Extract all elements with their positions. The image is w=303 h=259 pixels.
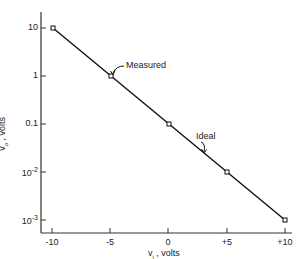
x-tick-label: -5 xyxy=(106,237,114,247)
x-ticks xyxy=(52,228,285,233)
x-tick-label: +5 xyxy=(222,237,232,247)
x-tick-label: -10 xyxy=(45,237,58,247)
y-tick-label: 10-3 xyxy=(22,214,38,226)
ideal-annotation: Ideal xyxy=(196,131,216,141)
y-tick-label: 1 xyxy=(33,70,38,80)
y-ticks xyxy=(41,28,46,220)
y-tick-label: 10-2 xyxy=(22,166,38,178)
y-tick-label: 0.1 xyxy=(25,118,38,128)
measured-annotation: Measured xyxy=(126,60,166,70)
x-tick-label: 0 xyxy=(165,237,170,247)
y-axis-label: vo , volts xyxy=(0,117,9,151)
y-tick-label: 10 xyxy=(28,22,38,32)
chart-canvas xyxy=(0,0,303,259)
x-tick-label: +10 xyxy=(277,237,292,247)
x-axis-label: vi , volts xyxy=(148,248,180,259)
